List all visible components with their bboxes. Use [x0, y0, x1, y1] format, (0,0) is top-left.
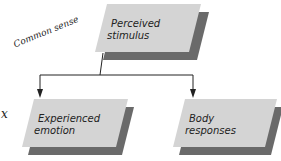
node-perceived-stimulus: Perceived stimulus [97, 4, 207, 62]
node-body-responses: Body responses [177, 99, 281, 157]
node-experienced-emotion: Experienced emotion [26, 99, 136, 157]
arrow-to-body-icon [190, 89, 196, 98]
node-label: Perceived [111, 18, 160, 30]
node-label: Experienced [38, 113, 100, 125]
node-label: Body [189, 113, 214, 125]
handwritten-mark: x [1, 107, 8, 121]
flow-diagram: Perceived stimulus Experienced emotion B… [0, 0, 281, 161]
node-label: responses [185, 125, 236, 137]
arrow-to-emotion-icon [37, 89, 43, 98]
node-label: stimulus [107, 30, 149, 42]
node-label: emotion [34, 125, 75, 137]
